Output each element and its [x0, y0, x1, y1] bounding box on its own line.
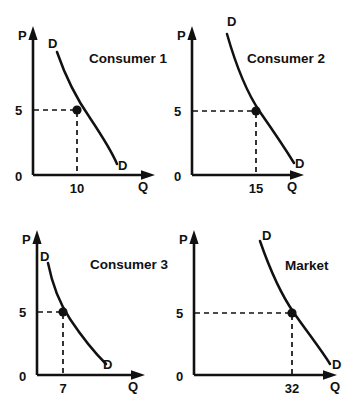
x-axis-label: Q [138, 179, 148, 194]
demand-label-top: D [227, 14, 236, 29]
quantity-tick-label: 10 [70, 181, 84, 196]
y-axis-arrow-icon [187, 26, 196, 40]
demand-label-bottom: D [332, 357, 341, 372]
panel-market: P Q 0 5 32 D D Market [182, 209, 364, 417]
price-tick-label: 5 [176, 306, 183, 321]
demand-curve-consumer-1 [57, 52, 117, 164]
y-axis-arrow-icon [189, 230, 198, 244]
panel-consumer-3: P Q 0 5 7 D D Consumer 3 [0, 209, 182, 417]
demand-label-bottom: D [295, 156, 304, 171]
origin-label: 0 [174, 169, 181, 184]
demand-label-top: D [40, 249, 49, 264]
y-axis-arrow-icon [28, 26, 37, 40]
price-tick-label: 5 [174, 104, 181, 119]
panel-title-consumer-2: Consumer 2 [247, 51, 325, 66]
y-axis-arrow-icon [32, 230, 41, 244]
panel-title-consumer-3: Consumer 3 [90, 257, 169, 272]
panel-title-market: Market [285, 258, 329, 273]
panel-title-consumer-1: Consumer 1 [89, 51, 168, 66]
y-axis-label: P [177, 28, 186, 43]
x-axis-label: Q [330, 379, 340, 394]
quantity-tick-label: 32 [285, 381, 299, 396]
origin-label: 0 [15, 169, 22, 184]
y-axis-label: P [18, 28, 27, 43]
demand-label-top: D [262, 228, 271, 243]
demand-curves-figure: P Q 0 5 10 D D Consumer 1 P [0, 0, 364, 417]
equilibrium-point-dot [58, 307, 67, 316]
price-tick-label: 5 [15, 103, 22, 118]
origin-label: 0 [19, 369, 26, 384]
y-axis-label: P [179, 232, 188, 247]
panel-consumer-2: P Q 0 5 15 D D Consumer 2 [182, 0, 364, 208]
x-axis-label: Q [128, 379, 138, 394]
panel-consumer-1: P Q 0 5 10 D D Consumer 1 [0, 0, 182, 208]
demand-curve-consumer-3 [48, 263, 106, 364]
demand-label-bottom: D [118, 158, 127, 173]
price-tick-label: 5 [19, 305, 26, 320]
quantity-tick-label: 7 [59, 381, 66, 396]
equilibrium-point-dot [72, 105, 81, 114]
origin-label: 0 [176, 369, 183, 384]
x-axis-label: Q [287, 179, 297, 194]
equilibrium-point-dot [251, 106, 260, 115]
equilibrium-point-dot [287, 308, 296, 317]
quantity-tick-label: 15 [249, 181, 263, 196]
y-axis-label: P [22, 232, 31, 247]
demand-label-bottom: D [103, 357, 112, 372]
demand-label-top: D [48, 36, 57, 51]
